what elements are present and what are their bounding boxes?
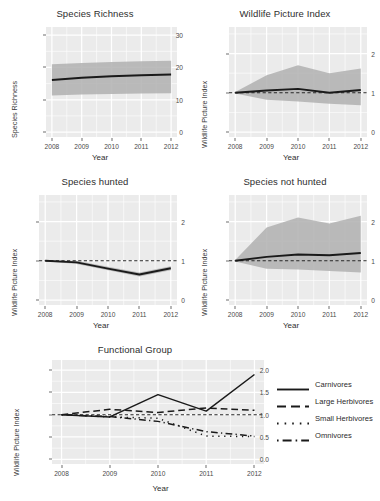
x-tick-label: 2011 bbox=[199, 470, 213, 477]
y-tick-mark bbox=[226, 260, 229, 261]
y-tick-mark bbox=[49, 370, 52, 371]
panel-species-hunted: Species hunted Wildlife Picture Index 01… bbox=[0, 176, 190, 342]
x-tick-mark bbox=[254, 465, 255, 468]
y-tick-label: 2 bbox=[358, 218, 375, 225]
x-tick-label: 2008 bbox=[54, 470, 69, 477]
y-tick-label: 10 bbox=[159, 96, 183, 103]
x-tick-mark bbox=[206, 465, 207, 468]
plot-area-species-richness bbox=[46, 27, 177, 137]
x-tick-mark bbox=[298, 306, 299, 309]
x-tick-mark bbox=[360, 138, 361, 141]
legend-key-solid-icon bbox=[276, 380, 310, 389]
plot-svg-wildlife-picture-index bbox=[229, 27, 367, 137]
panel-title-wildlife-picture-index: Wildlife Picture Index bbox=[190, 8, 380, 19]
y-tick-mark bbox=[36, 221, 39, 222]
x-tick-mark bbox=[329, 306, 330, 309]
y-tick-label: 2 bbox=[358, 50, 375, 57]
panel-title-functional-group: Functional Group bbox=[0, 344, 270, 355]
x-tick-label: 2012 bbox=[163, 311, 178, 318]
legend-item-large-herbivores[interactable]: Large Herbivores bbox=[276, 397, 373, 406]
x-tick-label: 2012 bbox=[247, 470, 262, 477]
legend-item-small-herbivores[interactable]: Small Herbivores bbox=[276, 414, 373, 423]
y-tick-label: 30 bbox=[159, 32, 183, 39]
panel-title-species-hunted: Species hunted bbox=[0, 176, 190, 187]
x-tick-mark bbox=[266, 306, 267, 309]
x-tick-mark bbox=[81, 138, 82, 141]
x-tick-mark bbox=[235, 306, 236, 309]
plot-wrapper-wildlife-picture-index: 01220082009201020112012 Year bbox=[207, 25, 375, 174]
y-tick-label: 1.5 bbox=[241, 389, 269, 396]
x-tick-mark bbox=[360, 306, 361, 309]
x-axis-label-species-not-hunted: Year bbox=[207, 321, 375, 330]
x-tick-mark bbox=[139, 306, 140, 309]
x-tick-label: 2009 bbox=[69, 311, 84, 318]
y-tick-label: 0 bbox=[159, 129, 183, 136]
x-tick-label: 2009 bbox=[102, 470, 117, 477]
x-axis-label-wildlife-picture-index: Year bbox=[207, 153, 375, 162]
x-tick-mark bbox=[158, 465, 159, 468]
y-tick-mark bbox=[43, 132, 46, 133]
panel-wildlife-picture-index: Wildlife Picture Index Wildlife Picture … bbox=[190, 8, 380, 174]
legend-item-carnivores[interactable]: Carnivores bbox=[276, 380, 352, 389]
x-tick-label: 2008 bbox=[38, 311, 53, 318]
y-tick-label: 1 bbox=[358, 89, 375, 96]
legend-label-carnivores: Carnivores bbox=[315, 380, 352, 389]
y-tick-mark bbox=[226, 300, 229, 301]
x-tick-mark bbox=[266, 138, 267, 141]
figure-panel-grid: Species Richness Species Richness 010203… bbox=[0, 0, 380, 501]
x-tick-mark bbox=[171, 138, 172, 141]
x-tick-label: 2008 bbox=[228, 311, 243, 318]
y-tick-mark bbox=[226, 221, 229, 222]
y-tick-label: 2.0 bbox=[241, 367, 269, 374]
panel-title-species-not-hunted: Species not hunted bbox=[190, 176, 380, 187]
panel-species-not-hunted: Species not hunted Wildlife Picture Inde… bbox=[190, 176, 380, 342]
y-tick-mark bbox=[49, 436, 52, 437]
x-tick-mark bbox=[45, 306, 46, 309]
x-tick-mark bbox=[329, 138, 330, 141]
y-tick-label: 1 bbox=[168, 257, 185, 264]
x-tick-label: 2010 bbox=[104, 143, 119, 150]
panel-functional-group: Functional Group Wildlife Picture Index … bbox=[0, 344, 380, 501]
x-tick-label: 2012 bbox=[353, 143, 368, 150]
legend-key-dashdot-icon bbox=[276, 431, 310, 440]
plot-svg-species-hunted bbox=[39, 195, 177, 305]
y-tick-label: 1.0 bbox=[241, 411, 269, 418]
y-tick-mark bbox=[49, 392, 52, 393]
x-tick-mark bbox=[111, 138, 112, 141]
plot-area-species-not-hunted bbox=[229, 195, 367, 305]
y-tick-label: 0 bbox=[358, 129, 375, 136]
plot-wrapper-species-richness: 010203020082009201020112012 Year bbox=[17, 25, 183, 174]
x-tick-label: 2009 bbox=[259, 311, 274, 318]
x-tick-label: 2011 bbox=[322, 311, 336, 318]
plot-svg-species-not-hunted bbox=[229, 195, 367, 305]
x-tick-label: 2011 bbox=[132, 311, 146, 318]
x-tick-label: 2011 bbox=[322, 143, 336, 150]
legend-label-small-herbivores: Small Herbivores bbox=[315, 414, 373, 423]
y-tick-mark bbox=[49, 414, 52, 415]
y-tick-mark bbox=[36, 260, 39, 261]
plot-svg-species-richness bbox=[46, 27, 177, 137]
y-tick-mark bbox=[43, 99, 46, 100]
x-axis-label-functional-group: Year bbox=[52, 484, 269, 493]
x-tick-label: 2009 bbox=[259, 143, 274, 150]
legend-item-omnivores[interactable]: Omnivores bbox=[276, 431, 352, 440]
x-tick-label: 2008 bbox=[45, 143, 60, 150]
plot-area-species-hunted bbox=[39, 195, 177, 305]
y-tick-mark bbox=[49, 459, 52, 460]
x-tick-mark bbox=[108, 306, 109, 309]
plot-wrapper-species-hunted: 01220082009201020112012 Year bbox=[17, 193, 185, 342]
y-tick-label: 0 bbox=[358, 297, 375, 304]
plot-area-wildlife-picture-index bbox=[229, 27, 367, 137]
x-tick-label: 2012 bbox=[353, 311, 368, 318]
plot-svg-functional-group bbox=[52, 360, 264, 464]
y-tick-mark bbox=[36, 300, 39, 301]
panel-title-species-richness: Species Richness bbox=[0, 8, 190, 19]
x-tick-label: 2010 bbox=[151, 470, 166, 477]
y-tick-mark bbox=[226, 132, 229, 133]
x-tick-label: 2008 bbox=[228, 143, 243, 150]
x-tick-label: 2009 bbox=[74, 143, 89, 150]
x-tick-mark bbox=[61, 465, 62, 468]
legend-label-large-herbivores: Large Herbivores bbox=[315, 397, 373, 406]
legend-key-dotted-icon bbox=[276, 414, 310, 423]
legend-functional-group: Carnivores Large Herbivores Small Herbiv… bbox=[276, 380, 380, 442]
